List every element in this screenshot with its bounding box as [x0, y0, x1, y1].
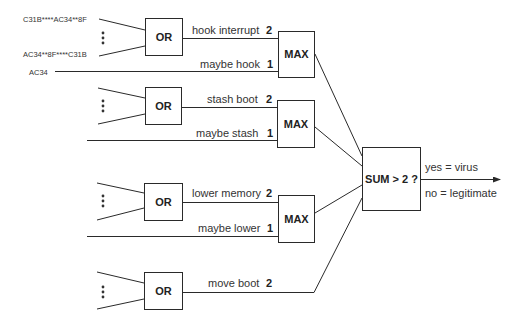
- lower-memory-label: lower memory: [192, 187, 262, 199]
- or1-input-top: [99, 19, 145, 30]
- vertical-ellipsis-icon: [102, 100, 105, 113]
- stash-boot-label: stash boot: [207, 93, 258, 105]
- or4-input-top: [97, 272, 144, 283]
- or-gate-2-label: OR: [155, 100, 172, 112]
- signature-label-1: C31B****AC34**8F: [23, 15, 87, 24]
- or3-input-top: [97, 183, 144, 193]
- vertical-ellipsis-icon: [102, 286, 105, 299]
- or-gate-3-label: OR: [155, 196, 172, 208]
- max-gate-1-label: MAX: [284, 48, 309, 60]
- or-gate-4-label: OR: [155, 285, 172, 297]
- maybe-hook-label: maybe hook: [200, 58, 260, 70]
- vertical-ellipsis-icon: [102, 32, 105, 45]
- group-move-boot: OR move boot 2: [97, 198, 362, 310]
- or3-input-bottom: [97, 208, 144, 220]
- maybe-lower-label: maybe lower: [198, 222, 261, 234]
- maybe-stash-weight: 1: [267, 127, 273, 139]
- or1-input-bottom: [99, 46, 145, 56]
- group-stash: OR stash boot 2 maybe stash 1 MAX: [87, 88, 315, 148]
- max3-to-sum-line: [315, 185, 362, 213]
- output-no-label: no = legitimate: [425, 187, 497, 199]
- max2-to-sum-line: [315, 127, 362, 166]
- group-lower: OR lower memory 2 maybe lower 1 MAX: [87, 183, 315, 243]
- group-hook: C31B****AC34**8F AC34**8F****C31B AC34 O…: [23, 15, 315, 78]
- stash-boot-weight: 2: [266, 93, 272, 105]
- signature-label-2: AC34**8F****C31B: [23, 50, 87, 59]
- or2-input-bottom: [98, 114, 145, 124]
- signature-label-3: AC34: [29, 68, 48, 77]
- lower-memory-weight: 2: [266, 187, 272, 199]
- move-boot-weight: 2: [266, 277, 272, 289]
- max-gate-2-label: MAX: [284, 118, 309, 130]
- maybe-stash-label: maybe stash: [196, 127, 258, 139]
- move-boot-label: move boot: [208, 277, 259, 289]
- hook-interrupt-weight: 2: [266, 24, 272, 36]
- or2-input-top: [98, 88, 145, 98]
- max1-to-sum-line: [315, 54, 362, 156]
- sum-gate-label: SUM > 2 ?: [365, 173, 418, 185]
- maybe-lower-weight: 1: [267, 222, 273, 234]
- hook-interrupt-label: hook interrupt: [192, 24, 259, 36]
- or4-input-bottom: [97, 299, 144, 309]
- max-gate-3-label: MAX: [284, 213, 309, 225]
- vertical-ellipsis-icon: [102, 195, 105, 208]
- or-gate-1-label: OR: [156, 31, 173, 43]
- maybe-hook-weight: 1: [267, 58, 273, 70]
- output-yes-label: yes = virus: [425, 161, 478, 173]
- virus-detection-diagram: C31B****AC34**8F AC34**8F****C31B AC34 O…: [0, 0, 526, 323]
